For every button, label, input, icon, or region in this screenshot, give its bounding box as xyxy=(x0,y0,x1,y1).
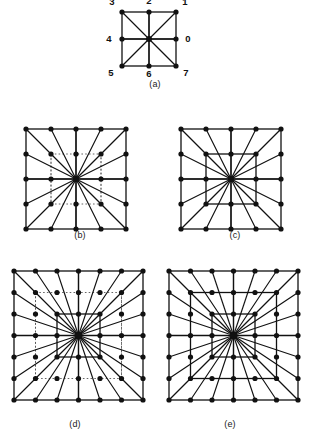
panel-e-node-3-2 xyxy=(231,311,236,316)
panel-c-node-1-4 xyxy=(203,226,208,231)
panel-d-node-3-1 xyxy=(76,290,81,295)
panel-d-node-2-3 xyxy=(54,333,59,338)
panel-b-node-4-4 xyxy=(123,226,128,231)
panel-b-node-0-3 xyxy=(23,201,28,206)
panel-d-ray-6 xyxy=(14,336,79,401)
panel-d-node-4-3 xyxy=(97,333,102,338)
panel-d-node-5-3 xyxy=(119,333,124,338)
panel-e-node-2-2 xyxy=(209,311,214,316)
panel-a-ray-2 xyxy=(122,39,149,66)
panel-e-node-6-0 xyxy=(295,268,300,273)
panel-caption-e: (e) xyxy=(200,419,260,429)
panel-e-center-node xyxy=(231,333,237,339)
panel-e-node-2-5 xyxy=(209,376,214,381)
panel-b-node-3-3 xyxy=(98,201,103,206)
panel-e-ray-9 xyxy=(212,271,234,336)
panel-e-node-1-6 xyxy=(188,397,193,402)
panel-d-node-3-2 xyxy=(76,311,81,316)
panel-b-node-0-4 xyxy=(23,226,28,231)
panel-d-node-4-6 xyxy=(97,397,102,402)
panel-e-ray-21 xyxy=(234,336,299,358)
panel-e-node-1-1 xyxy=(188,290,193,295)
panel-b-ray-5 xyxy=(51,129,76,179)
panel-c-node-2-3 xyxy=(228,201,233,206)
panel-d-node-0-6 xyxy=(11,397,16,402)
panel-c-node-2-1 xyxy=(228,151,233,156)
panel-b-ray-6 xyxy=(51,179,76,229)
panel-e-ray-0 xyxy=(169,271,234,336)
panel-c-node-0-2 xyxy=(178,176,183,181)
panel-d-node-3-4 xyxy=(76,354,81,359)
panel-d-node-2-6 xyxy=(54,397,59,402)
panel-d-node-6-0 xyxy=(140,268,145,273)
panel-b-center-node xyxy=(73,176,79,182)
panel-e-node-1-3 xyxy=(188,333,193,338)
panel-c-node-4-0 xyxy=(278,126,283,131)
panel-e-node-5-0 xyxy=(274,268,279,273)
panel-caption-c: (c) xyxy=(210,230,260,240)
panel-e-node-5-4 xyxy=(274,354,279,359)
panel-e-node-4-5 xyxy=(252,376,257,381)
panel-a: 01234567 xyxy=(106,0,192,82)
panel-e-node-4-2 xyxy=(252,311,257,316)
panel-e-ray-19 xyxy=(234,314,299,336)
panel-d-node-0-4 xyxy=(11,354,16,359)
panel-b-node-3-0 xyxy=(98,126,103,131)
panel-e-node-2-3 xyxy=(209,333,214,338)
panel-e-node-6-2 xyxy=(295,311,300,316)
panel-d-node-5-5 xyxy=(119,376,124,381)
panel-e-node-5-6 xyxy=(274,397,279,402)
direction-label-7: 7 xyxy=(183,67,188,78)
panel-e-node-6-4 xyxy=(295,354,300,359)
panel-e-node-1-5 xyxy=(188,376,193,381)
panel-e-node-6-6 xyxy=(295,397,300,402)
panel-e-node-2-6 xyxy=(209,397,214,402)
panel-d-node-3-6 xyxy=(76,397,81,402)
panel-d-center-node xyxy=(76,333,82,339)
panel-e-ray-17 xyxy=(234,271,299,336)
panel-d-node-1-3 xyxy=(33,333,38,338)
panel-e-node-0-2 xyxy=(166,311,171,316)
panel-b-node-0-1 xyxy=(23,151,28,156)
panel-d-node-4-2 xyxy=(97,311,102,316)
panel-a-ray-7 xyxy=(149,39,176,66)
direction-label-4: 4 xyxy=(106,33,112,44)
panel-a-node-0-2 xyxy=(119,63,124,68)
panel-c-node-0-0 xyxy=(178,126,183,131)
panel-d-ray-14 xyxy=(79,336,101,401)
direction-label-0: 0 xyxy=(185,33,190,44)
panel-d-node-6-1 xyxy=(140,290,145,295)
panel-e-node-6-5 xyxy=(295,376,300,381)
panel-d-graph xyxy=(0,255,159,416)
panel-d-node-4-5 xyxy=(97,376,102,381)
panel-d-node-4-0 xyxy=(97,268,102,273)
panel-e-node-4-1 xyxy=(252,290,257,295)
panel-d-ray-10 xyxy=(57,336,79,401)
panel-e-node-3-0 xyxy=(231,268,236,273)
panel-c-node-3-1 xyxy=(253,151,258,156)
panel-c-node-4-4 xyxy=(278,226,283,231)
panel-d-node-2-4 xyxy=(54,354,59,359)
panel-d-node-2-2 xyxy=(54,311,59,316)
panel-d-node-6-2 xyxy=(140,311,145,316)
panel-b-node-3-1 xyxy=(98,151,103,156)
panel-c-node-2-0 xyxy=(228,126,233,131)
panel-c-node-3-2 xyxy=(253,176,258,181)
panel-d-ray-9 xyxy=(57,271,79,336)
panel-d-node-2-0 xyxy=(54,268,59,273)
panel-c-node-0-3 xyxy=(178,201,183,206)
panel-c-node-4-1 xyxy=(278,151,283,156)
panel-d-node-2-1 xyxy=(54,290,59,295)
panel-d-node-0-2 xyxy=(11,311,16,316)
panel-a-node-0-0 xyxy=(119,9,124,14)
panel-d-node-3-5 xyxy=(76,376,81,381)
panel-d-node-5-1 xyxy=(119,290,124,295)
panel-e-node-3-6 xyxy=(231,397,236,402)
panel-e-ray-14 xyxy=(234,336,256,401)
panel-c xyxy=(165,113,297,245)
panel-b-node-1-4 xyxy=(48,226,53,231)
panel-d-node-6-5 xyxy=(140,376,145,381)
direction-label-3: 3 xyxy=(109,0,114,7)
panel-c-node-4-2 xyxy=(278,176,283,181)
panel-caption-d: (d) xyxy=(45,419,105,429)
